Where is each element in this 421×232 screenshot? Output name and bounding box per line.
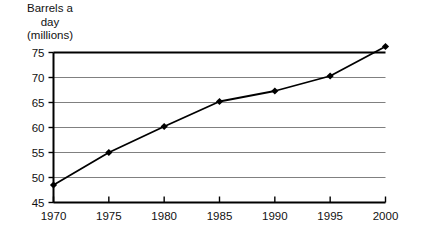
x-axis-tick-label: 1985 — [207, 210, 233, 222]
data-point-marker — [327, 72, 334, 79]
y-axis-tick-labels: 45505560657075 — [32, 47, 45, 209]
gridlines — [54, 53, 386, 203]
data-point-marker — [382, 43, 389, 50]
y-axis-tick-label: 75 — [32, 47, 45, 59]
y-axis-tick-label: 60 — [32, 122, 45, 134]
x-axis-tick-label: 1995 — [317, 210, 343, 222]
data-point-marker — [271, 87, 278, 94]
x-axis-tick-label: 1975 — [96, 210, 122, 222]
x-axis-tick-label: 2000 — [373, 210, 399, 222]
y-axis-tick-label: 65 — [32, 97, 45, 109]
line-chart-plot: 45505560657075 1970197519801985199019952… — [0, 0, 421, 232]
x-axis-tick-labels: 1970197519801985199019952000 — [41, 210, 399, 222]
y-axis-tick-label: 70 — [32, 72, 45, 84]
x-axis-tick-label: 1980 — [151, 210, 177, 222]
data-line — [54, 47, 386, 186]
y-axis-tick-label: 45 — [32, 197, 45, 209]
chart-container: Barrels a day (millions) 45505560657075 … — [0, 0, 421, 232]
data-point-marker — [161, 123, 168, 130]
y-axis-tick-label: 50 — [32, 172, 45, 184]
x-axis-tick-label: 1970 — [41, 210, 67, 222]
x-axis-tick-label: 1990 — [262, 210, 288, 222]
y-axis-tick-label: 55 — [32, 147, 45, 159]
data-point-marker — [216, 98, 223, 105]
data-point-markers — [50, 43, 389, 189]
